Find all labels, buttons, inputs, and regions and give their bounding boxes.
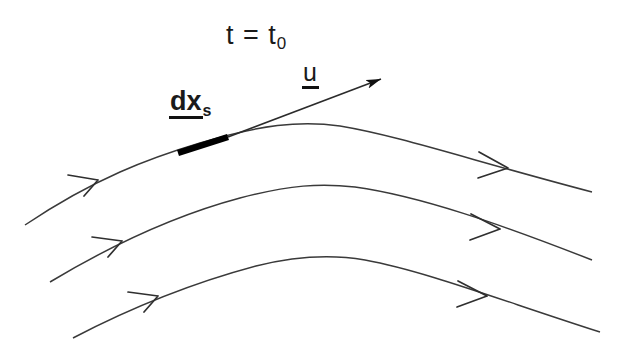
streamline-middle (50, 185, 592, 282)
arrowhead-top-left (68, 175, 98, 196)
diagram-canvas (0, 0, 617, 358)
streamline-top (25, 124, 592, 225)
streamline-field-diagram: t = t0 u dxs (0, 0, 617, 358)
time-label-main: t = t (226, 20, 277, 50)
velocity-symbol: u (303, 60, 317, 88)
line-element-label: dxs (170, 88, 210, 118)
streamline-bottom (73, 257, 600, 338)
streamlines (25, 124, 600, 338)
material-line-element-segment (178, 137, 228, 153)
line-element-symbol: dx (170, 88, 202, 118)
arrowhead-bottom-right (457, 281, 487, 307)
arrowhead-middle-right (470, 214, 500, 240)
streamline-direction-arrowheads (68, 152, 508, 312)
time-label: t = t0 (226, 22, 287, 49)
line-element-subscript: s (203, 102, 212, 119)
time-label-subscript: 0 (277, 34, 287, 53)
arrowhead-middle-left (92, 237, 122, 257)
velocity-vector-label: u (303, 60, 317, 88)
